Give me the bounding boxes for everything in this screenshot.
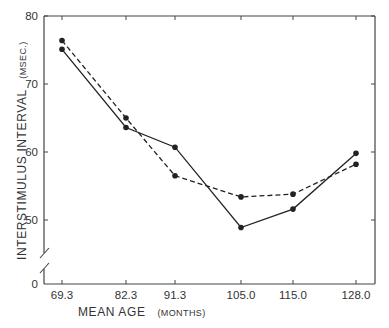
dashed-data-point xyxy=(353,161,359,167)
data-series xyxy=(59,38,359,231)
x-tick-label: 128.0 xyxy=(342,289,371,301)
dashed-data-point xyxy=(123,115,129,121)
solid-data-point xyxy=(238,225,244,231)
solid-data-point xyxy=(59,47,65,53)
x-tick-label: 105.0 xyxy=(227,289,256,301)
dashed-data-point xyxy=(59,38,65,44)
solid-series-line xyxy=(62,49,356,227)
x-tick-label: 115.0 xyxy=(279,289,307,301)
dashed-series-line xyxy=(62,41,356,197)
y-tick-label: 0 xyxy=(32,278,38,290)
y-axis-unit: (MSEC.) xyxy=(18,41,28,78)
x-axis-title: MEAN AGE (MONTHS) xyxy=(78,305,206,319)
y-axis-title: INTERSTIMULUS INTERVAL (MSEC.) xyxy=(15,41,29,260)
solid-data-point xyxy=(172,144,178,150)
x-tick-label: 91.3 xyxy=(164,289,186,301)
x-tick-label: 82.3 xyxy=(115,289,137,301)
dashed-data-point xyxy=(238,194,244,200)
line-chart: 050607080 69.382.391.3105.0115.0128.0 ME… xyxy=(0,0,389,328)
solid-data-point xyxy=(353,151,359,157)
y-axis-label: INTERSTIMULUS INTERVAL xyxy=(15,89,29,260)
solid-data-point xyxy=(290,206,296,212)
x-tick-labels: 69.382.391.3105.0115.0128.0 xyxy=(51,289,371,301)
dashed-data-point xyxy=(290,191,296,197)
x-tick-label: 69.3 xyxy=(51,289,73,301)
x-axis-label: MEAN AGE xyxy=(78,305,145,319)
axis-ticks xyxy=(44,16,375,284)
plot-frame xyxy=(44,16,375,284)
solid-data-point xyxy=(123,125,129,131)
x-axis-unit: (MONTHS) xyxy=(157,308,205,318)
dashed-data-point xyxy=(172,173,178,179)
y-tick-label: 80 xyxy=(25,10,38,22)
